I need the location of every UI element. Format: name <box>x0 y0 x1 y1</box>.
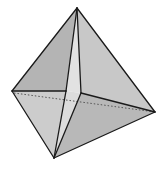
tetrahedron-diagram <box>0 0 165 171</box>
tetrahedron-figure <box>0 0 165 171</box>
